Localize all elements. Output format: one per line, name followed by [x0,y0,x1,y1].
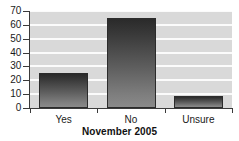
y-tick-label: 70 [0,6,21,16]
y-tick-mark [23,94,29,95]
x-tick-mark [232,109,233,113]
bar-no [107,18,156,108]
y-tick-label: 20 [0,75,21,85]
bar-yes [39,73,88,108]
plot-area [30,11,232,108]
y-tick-mark [23,11,29,12]
y-axis-line [29,11,30,109]
y-tick-mark [23,53,29,54]
y-tick-label: 30 [0,61,21,71]
x-axis-line [29,108,233,109]
y-tick-label: 0 [0,103,21,113]
bar-unsure [174,96,223,108]
y-tick-label: 10 [0,89,21,99]
bar-chart-figure: 706050403020100 YesNoUnsure November 200… [0,0,239,141]
y-tick-mark [23,39,29,40]
y-tick-mark [23,80,29,81]
y-tick-label: 50 [0,34,21,44]
y-tick-label: 60 [0,20,21,30]
y-tick-mark [23,66,29,67]
y-tick-mark [23,25,29,26]
x-tick-mark [165,109,166,113]
x-tick-mark [30,109,31,113]
gridline [30,11,232,12]
y-tick-mark [23,108,29,109]
x-tick-mark [97,109,98,113]
y-tick-label: 40 [0,48,21,58]
chart-title: November 2005 [0,126,239,138]
x-tick-label: Unsure [158,114,238,125]
